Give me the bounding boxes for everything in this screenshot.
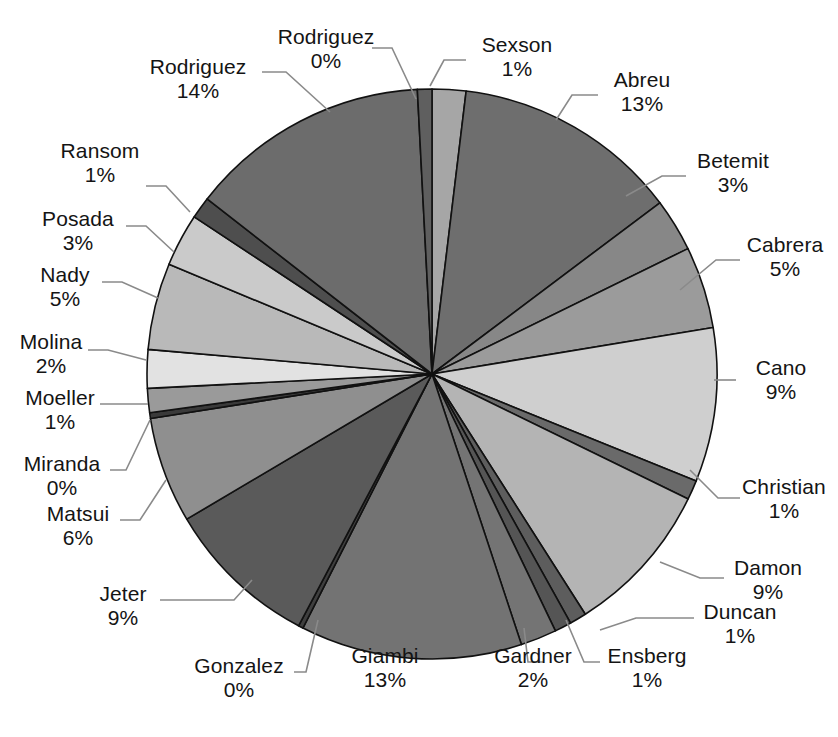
slice-label-miranda: Miranda 0% [6, 452, 118, 500]
slice-label-percent: 1% [592, 668, 702, 692]
slice-label-name: Damon [716, 556, 820, 580]
slice-label-name: Cano [736, 356, 826, 380]
slice-label-name: Ransom [44, 139, 156, 163]
slice-label-duncan: Duncan 1% [688, 600, 792, 648]
slice-label-matsui: Matsui 6% [30, 502, 126, 550]
slice-label-giambi: Giambi 13% [330, 644, 440, 692]
slice-label-name: Christian [728, 475, 838, 499]
slice-label-name: Nady [22, 263, 108, 287]
slice-label-percent: 2% [2, 354, 100, 378]
slice-label-name: Giambi [330, 644, 440, 668]
slice-label-ransom: Ransom 1% [44, 139, 156, 187]
leader-line-ransom [146, 186, 190, 212]
slice-label-betemit: Betemit 3% [678, 149, 788, 197]
slice-label-name: Matsui [30, 502, 126, 526]
slice-label-cabrera: Cabrera 5% [730, 233, 838, 281]
slice-label-name: Ensberg [592, 644, 702, 668]
slice-label-percent: 1% [8, 410, 112, 434]
slice-label-percent: 9% [736, 380, 826, 404]
slice-label-posada: Posada 3% [26, 207, 130, 255]
slice-label-name: Gonzalez [176, 654, 302, 678]
slice-label-percent: 1% [688, 624, 792, 648]
slice-label-name: Abreu [592, 68, 692, 92]
slice-label-percent: 2% [478, 668, 588, 692]
slice-label-percent: 13% [330, 668, 440, 692]
slice-label-percent: 0% [176, 678, 302, 702]
slice-label-name: Jeter [78, 582, 168, 606]
pie-chart-figure: Rodriguez 0% Sexson 1% Abreu 13% Rodrigu… [0, 0, 838, 737]
leader-line-rodriguez-big [262, 72, 330, 112]
slice-label-percent: 1% [44, 163, 156, 187]
slice-label-name: Rodriguez [256, 25, 396, 49]
slice-label-jeter: Jeter 9% [78, 582, 168, 630]
slice-label-name: Betemit [678, 149, 788, 173]
slice-label-percent: 0% [256, 49, 396, 73]
slice-label-abreu: Abreu 13% [592, 68, 692, 116]
slice-label-percent: 13% [592, 92, 692, 116]
slice-label-name: Cabrera [730, 233, 838, 257]
slice-label-percent: 3% [678, 173, 788, 197]
pie-slices-group [147, 89, 717, 659]
slice-label-nady: Nady 5% [22, 263, 108, 311]
slice-label-gardner: Gardner 2% [478, 644, 588, 692]
slice-label-percent: 1% [728, 499, 838, 523]
slice-label-cano: Cano 9% [736, 356, 826, 404]
slice-label-sexson: Sexson 1% [462, 33, 572, 81]
slice-label-name: Posada [26, 207, 130, 231]
slice-label-rodriguez-small: Rodriguez 0% [256, 25, 396, 73]
leader-line-sexson [430, 60, 466, 86]
slice-label-name: Rodriguez [128, 55, 268, 79]
slice-label-percent: 6% [30, 526, 126, 550]
slice-label-moeller: Moeller 1% [8, 386, 112, 434]
slice-label-gonzalez: Gonzalez 0% [176, 654, 302, 702]
leader-line-nady [102, 282, 158, 298]
slice-label-percent: 14% [128, 79, 268, 103]
slice-label-percent: 3% [26, 231, 130, 255]
slice-label-name: Sexson [462, 33, 572, 57]
slice-label-ensberg: Ensberg 1% [592, 644, 702, 692]
slice-label-damon: Damon 9% [716, 556, 820, 604]
leader-line-damon [660, 562, 724, 578]
slice-label-molina: Molina 2% [2, 330, 100, 378]
leader-line-posada [126, 226, 174, 252]
slice-label-name: Miranda [6, 452, 118, 476]
slice-label-rodriguez-big: Rodriguez 14% [128, 55, 268, 103]
slice-label-percent: 0% [6, 476, 118, 500]
slice-label-percent: 5% [22, 287, 108, 311]
slice-label-name: Duncan [688, 600, 792, 624]
leader-line-duncan [600, 618, 694, 630]
slice-label-percent: 9% [78, 606, 168, 630]
slice-label-christian: Christian 1% [728, 475, 838, 523]
slice-label-name: Moeller [8, 386, 112, 410]
leader-line-matsui [120, 480, 166, 520]
slice-label-percent: 1% [462, 57, 572, 81]
slice-label-percent: 5% [730, 257, 838, 281]
slice-label-name: Molina [2, 330, 100, 354]
slice-label-name: Gardner [478, 644, 588, 668]
